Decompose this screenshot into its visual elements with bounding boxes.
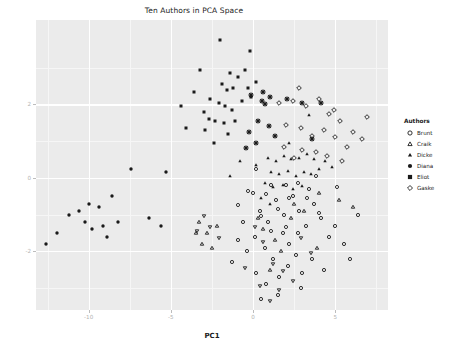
- y-tick-label: -2: [14, 248, 31, 254]
- data-point: [147, 216, 152, 221]
- legend-item-craik[interactable]: Craik: [404, 138, 452, 149]
- data-point: [290, 186, 295, 191]
- data-point: [203, 128, 208, 133]
- data-point: [264, 192, 269, 197]
- data-point: [116, 219, 121, 224]
- data-point: [242, 265, 247, 270]
- legend: Authors BruntCraikDickeDianaEliotGaske: [404, 118, 452, 193]
- data-point: [196, 219, 201, 224]
- data-point: [254, 271, 259, 276]
- data-point: [260, 239, 265, 244]
- data-point: [280, 182, 285, 187]
- data-point: [306, 113, 311, 118]
- data-point: [296, 155, 301, 160]
- data-point: [356, 212, 361, 217]
- data-point: [305, 151, 310, 156]
- data-point: [315, 245, 320, 250]
- data-point: [264, 282, 269, 287]
- data-point: [89, 227, 94, 232]
- data-point: [129, 166, 134, 171]
- data-point: [208, 225, 213, 230]
- data-point: [213, 118, 218, 123]
- data-point: [267, 94, 273, 100]
- data-point: [277, 100, 283, 106]
- data-point: [218, 38, 223, 43]
- data-point: [96, 205, 101, 210]
- data-point: [262, 181, 267, 186]
- data-point: [351, 205, 356, 210]
- data-point: [306, 186, 311, 191]
- data-point: [154, 196, 157, 199]
- data-point: [272, 238, 277, 243]
- x-tick-label: -10: [84, 314, 93, 320]
- data-point: [293, 173, 298, 178]
- data-point: [228, 71, 233, 76]
- data-point: [260, 227, 265, 232]
- data-point: [199, 241, 204, 246]
- data-point: [183, 126, 188, 131]
- gridline: [171, 20, 172, 310]
- plot-panel: [36, 20, 388, 310]
- circle-open-icon: [404, 127, 415, 138]
- y-tickmark: [33, 251, 36, 252]
- data-point: [55, 230, 60, 235]
- legend-item-eliot[interactable]: Eliot: [404, 171, 452, 182]
- data-point: [308, 250, 313, 255]
- data-point: [252, 225, 257, 230]
- data-point: [226, 131, 231, 136]
- data-point: [333, 223, 338, 228]
- data-point: [227, 173, 232, 178]
- x-tickmark: [89, 310, 90, 313]
- data-point: [163, 170, 168, 175]
- data-point: [364, 114, 370, 120]
- data-point: [269, 170, 274, 175]
- data-point: [216, 100, 221, 105]
- chart-root: Ten Authors in PCA Space PC1 PC2 -10-505…: [0, 0, 452, 357]
- data-point: [262, 101, 268, 107]
- legend-item-dicke[interactable]: Dicke: [404, 149, 452, 160]
- data-point: [277, 171, 282, 176]
- data-point: [248, 92, 254, 98]
- x-axis-label: PC1: [36, 332, 388, 340]
- data-point: [104, 234, 109, 239]
- data-point: [265, 219, 270, 224]
- x-tickmark: [171, 310, 172, 313]
- data-point: [334, 184, 339, 189]
- data-point: [282, 153, 287, 158]
- data-point: [331, 107, 337, 113]
- data-point: [316, 166, 321, 171]
- data-point: [231, 85, 236, 90]
- data-point: [270, 184, 275, 189]
- data-point: [265, 155, 270, 160]
- chart-title: Ten Authors in PCA Space: [0, 6, 388, 15]
- data-point: [245, 188, 250, 193]
- diamond-open-icon: [404, 182, 415, 193]
- data-point: [243, 145, 249, 151]
- data-point: [284, 96, 290, 102]
- data-point: [251, 190, 256, 195]
- data-point: [191, 89, 196, 94]
- data-point: [253, 140, 259, 146]
- data-point: [351, 129, 357, 135]
- data-point: [316, 190, 321, 195]
- data-point: [221, 120, 226, 125]
- data-point: [258, 214, 263, 219]
- data-point: [293, 252, 298, 257]
- legend-item-brunt[interactable]: Brunt: [404, 127, 452, 138]
- y-tickmark: [33, 104, 36, 105]
- data-point: [254, 80, 259, 85]
- gridline: [376, 20, 377, 310]
- data-point: [233, 118, 238, 123]
- legend-item-gaske[interactable]: Gaske: [404, 182, 452, 193]
- data-point: [341, 241, 346, 246]
- data-point: [223, 104, 228, 109]
- data-point: [145, 211, 148, 214]
- data-point: [287, 195, 292, 200]
- data-point: [339, 158, 345, 164]
- data-point: [287, 140, 292, 145]
- data-point: [208, 96, 213, 101]
- x-tickmark: [253, 310, 254, 313]
- legend-item-diana[interactable]: Diana: [404, 160, 452, 171]
- data-point: [109, 193, 114, 198]
- y-tickmark: [33, 178, 36, 179]
